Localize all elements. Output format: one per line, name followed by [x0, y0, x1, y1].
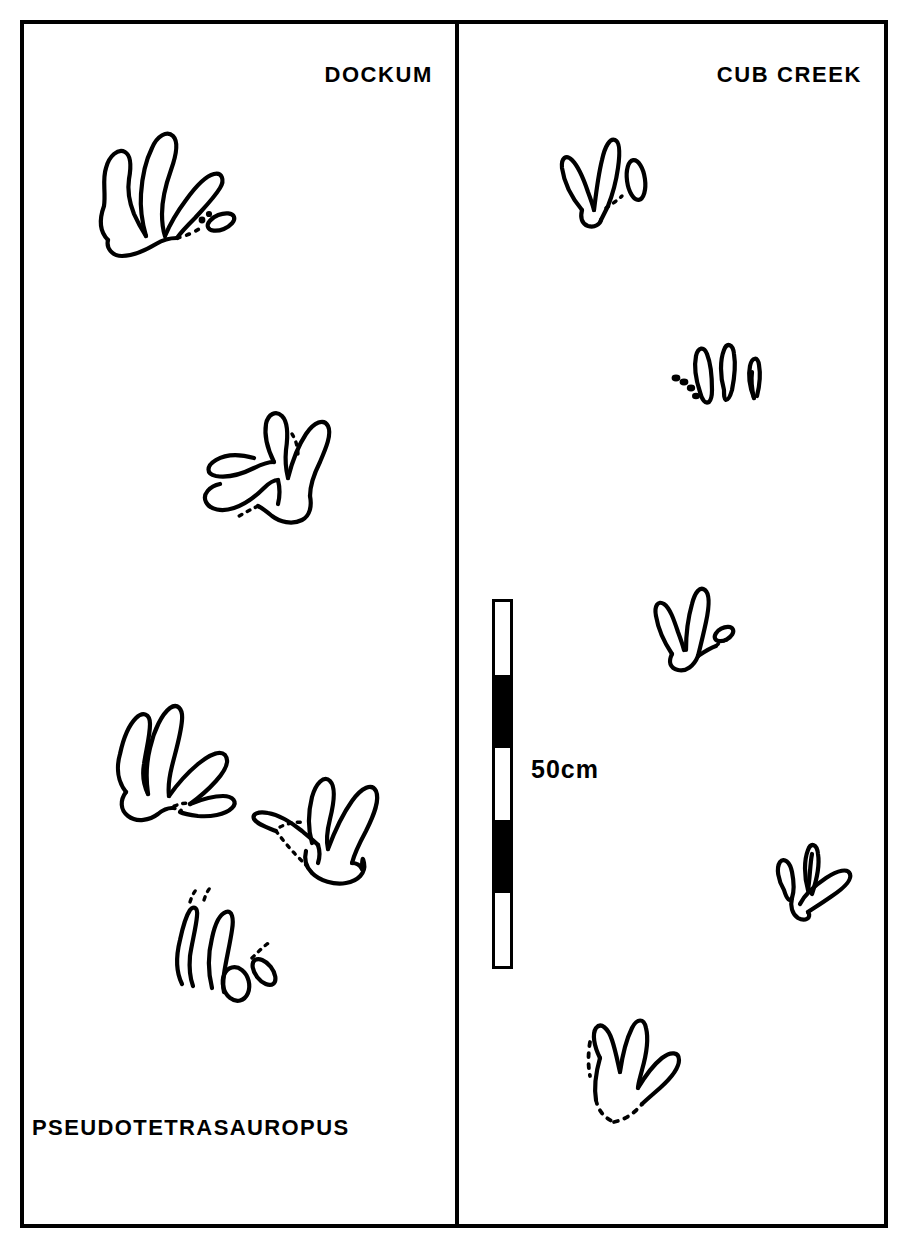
- cubcreek-track-2: [666, 334, 786, 419]
- dockum-track-5: [160, 884, 310, 999]
- scale-bar-segment-4: [495, 820, 510, 893]
- scale-bar-segment-2: [495, 675, 510, 748]
- panel-title-cub-creek: CUB CREEK: [717, 62, 862, 88]
- trackway-figure: DOCKUM: [0, 0, 900, 1245]
- dockum-track-1: [78, 122, 248, 252]
- scale-bar: [492, 599, 513, 969]
- dockum-track-4: [246, 757, 416, 887]
- scale-bar-segment-5: [495, 893, 510, 966]
- scale-bar-segment-3: [495, 748, 510, 821]
- cubcreek-track-1: [548, 128, 668, 233]
- scale-bar-label: 50cm: [531, 755, 599, 784]
- cubcreek-track-4: [762, 834, 872, 929]
- panel-title-dockum: DOCKUM: [324, 62, 433, 88]
- cubcreek-track-3: [636, 578, 756, 673]
- cubcreek-track-5: [570, 1002, 710, 1122]
- scale-bar-segment-1: [495, 602, 510, 675]
- dockum-track-3: [92, 692, 262, 822]
- taxon-label: PSEUDOTETRASAUROPUS: [32, 1115, 350, 1141]
- dockum-track-2: [192, 398, 362, 528]
